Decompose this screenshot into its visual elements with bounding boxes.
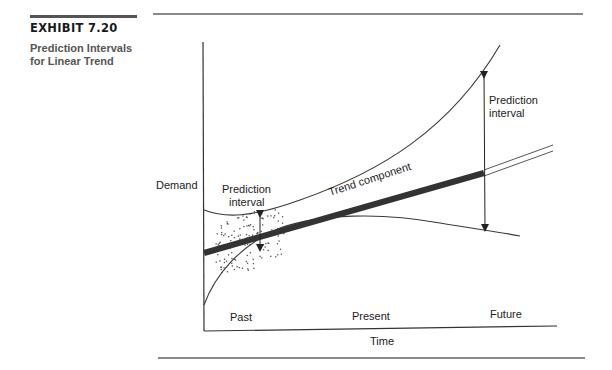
future-interval-label-1: Prediction: [489, 94, 538, 106]
trend-label: Trend component: [327, 160, 412, 198]
region-past: Past: [230, 311, 252, 323]
past-interval-label-2: interval: [229, 196, 264, 208]
x-axis-label: Time: [370, 335, 394, 347]
trend-extension-lower: [484, 151, 553, 176]
past-interval-label-1: Prediction: [222, 183, 271, 195]
region-present: Present: [352, 310, 390, 322]
trend-extension-upper: [484, 145, 553, 170]
future-interval-label-2: interval: [489, 107, 524, 119]
x-axis: [204, 326, 557, 331]
y-axis-label: Demand: [156, 179, 198, 191]
region-future: Future: [490, 308, 522, 320]
y-axis: [203, 42, 204, 331]
lower-prediction-bound: [204, 216, 520, 305]
prediction-interval-diagram: Demand Time Past Present Future Predicti…: [0, 0, 612, 370]
future-interval-arrow: [484, 75, 485, 228]
